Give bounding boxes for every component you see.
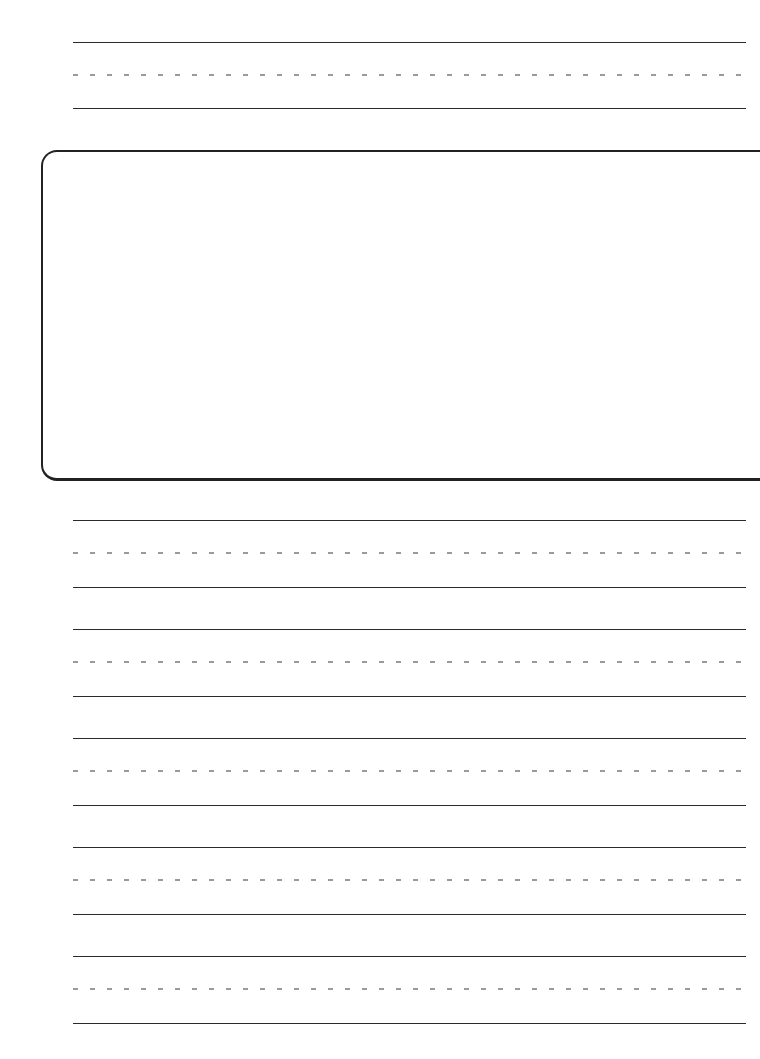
baseline <box>73 1023 746 1024</box>
midline <box>73 661 746 663</box>
midline <box>73 879 746 881</box>
baseline <box>73 587 746 588</box>
baseline <box>73 696 746 697</box>
baseline <box>73 914 746 915</box>
baseline <box>73 805 746 806</box>
midline <box>73 74 746 76</box>
headline <box>73 42 746 43</box>
headline <box>73 520 746 521</box>
headline <box>73 956 746 957</box>
headline <box>73 738 746 739</box>
headline <box>73 629 746 630</box>
drawing-box <box>41 150 760 481</box>
headline <box>73 847 746 848</box>
midline <box>73 552 746 554</box>
baseline <box>73 108 746 109</box>
midline <box>73 770 746 772</box>
midline <box>73 988 746 990</box>
